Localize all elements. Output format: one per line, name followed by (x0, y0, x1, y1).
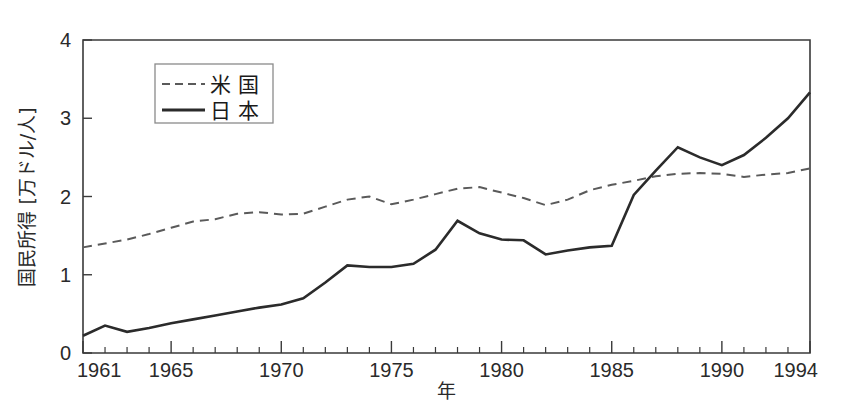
chart-background (0, 0, 858, 417)
y-tick-label-3: 3 (60, 107, 71, 129)
x-tick-label-1970: 1970 (259, 359, 304, 381)
x-tick-label-1965: 1965 (149, 359, 194, 381)
x-tick-label-1980: 1980 (479, 359, 524, 381)
x-tick-label-1990: 1990 (700, 359, 745, 381)
chart-canvas: 01234 19611965197019751980198519901994 米… (0, 0, 858, 417)
y-tick-label-2: 2 (60, 186, 71, 208)
y-tick-label-0: 0 (60, 342, 71, 364)
x-tick-label-1985: 1985 (589, 359, 634, 381)
income-line-chart: 01234 19611965197019751980198519901994 米… (0, 0, 858, 417)
y-tick-label-4: 4 (60, 29, 71, 51)
y-tick-label-1: 1 (60, 264, 71, 286)
x-tick-label-1994: 1994 (774, 359, 819, 381)
legend-label-usa: 米 国 (210, 73, 259, 97)
legend-label-japan: 日 本 (210, 99, 259, 123)
legend: 米 国 日 本 (155, 64, 273, 123)
x-axis-title: 年 (437, 380, 456, 402)
x-tick-label-1961: 1961 (77, 359, 122, 381)
y-axis-title: 国民所得 [万ドル/人] (16, 107, 38, 286)
x-tick-label-1975: 1975 (369, 359, 414, 381)
